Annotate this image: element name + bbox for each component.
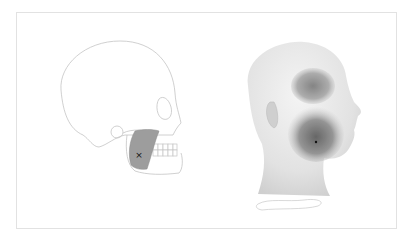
trigger-point-marker: × — [135, 150, 143, 160]
head-illustration — [238, 36, 368, 211]
teeth — [153, 144, 177, 156]
skull-illustration: × — [55, 35, 195, 180]
cranium-outline — [61, 41, 181, 147]
clavicle-outline — [256, 199, 321, 210]
eye-socket — [157, 97, 172, 119]
trigger-point-dot — [315, 141, 317, 143]
figure-description: Masseter trigger point and referred pain… — [17, 13, 18, 14]
